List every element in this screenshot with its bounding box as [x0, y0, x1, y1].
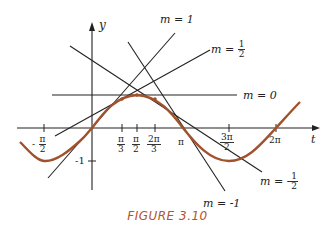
tick-label-neg1: -1 — [75, 156, 85, 166]
tick-label-pi-3: π3 — [117, 135, 125, 155]
tick-label-2pi: 2π — [269, 136, 281, 145]
tick-label-pi-2: π2 — [132, 135, 140, 155]
figure-caption: FIGURE 3.10 — [0, 209, 335, 223]
t-axis-label: t — [311, 134, 315, 145]
label-m-neg1: m = -1 — [203, 198, 240, 209]
label-m0: m = 0 — [243, 90, 277, 101]
label-m-neg-half: m = -12 — [260, 172, 298, 192]
tick-label-2pi-3: 2π3 — [147, 135, 161, 155]
figure-3-10: y t - π2 π3 π2 2π3 π 3π2 2π -1 m = 1 m =… — [0, 0, 335, 239]
tick-label-neg-pi-2: - π2 — [32, 135, 46, 155]
tangent-m-neg1 — [128, 42, 225, 191]
label-m-half: m = 12 — [211, 40, 245, 60]
label-m1: m = 1 — [160, 14, 194, 25]
tick-label-pi: π — [178, 138, 184, 147]
y-axis-label: y — [99, 19, 106, 31]
tick-label-3pi-2: 3π2 — [220, 133, 234, 153]
y-axis-arrow-icon — [89, 22, 95, 31]
t-axis-arrow-icon — [312, 125, 320, 131]
plot-canvas — [0, 0, 335, 239]
